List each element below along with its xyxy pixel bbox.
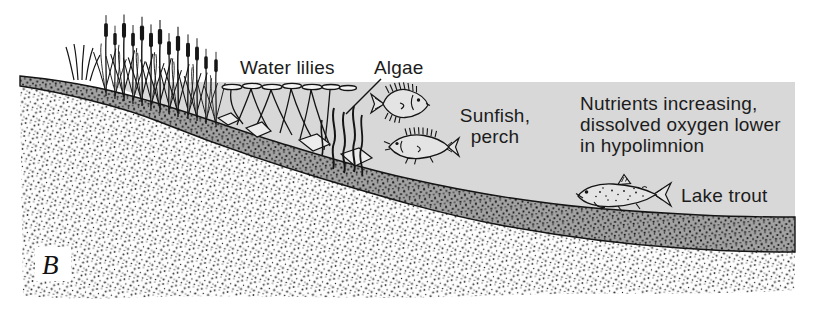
panel-label: B — [42, 250, 59, 280]
figure-lake-diagram-panel-b: Water lilies Algae Sunfish, perch Nutrie… — [0, 0, 813, 321]
nutrients-label-line3: in hypolimnion — [580, 135, 704, 156]
algae-label: Algae — [374, 57, 424, 78]
sunfish-perch-label-line1: Sunfish, — [460, 105, 530, 126]
lake-diagram-canvas: Water lilies Algae Sunfish, perch Nutrie… — [0, 0, 813, 321]
nutrients-label-line1: Nutrients increasing, — [580, 93, 757, 114]
nutrients-label-line2: dissolved oxygen lower — [580, 114, 781, 135]
lake-trout-label: Lake trout — [681, 185, 768, 206]
water-lilies-label: Water lilies — [240, 57, 335, 78]
panel-label-group: B — [35, 247, 71, 281]
sunfish-perch-label-line2: perch — [471, 126, 520, 147]
grass-tuft — [66, 44, 100, 81]
